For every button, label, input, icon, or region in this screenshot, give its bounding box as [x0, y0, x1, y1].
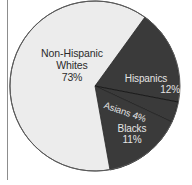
pie-chart-figure: Non-Hispanic Whites 73% Hispanics 12% As… — [0, 0, 192, 185]
pie-chart-graphic — [0, 0, 192, 185]
